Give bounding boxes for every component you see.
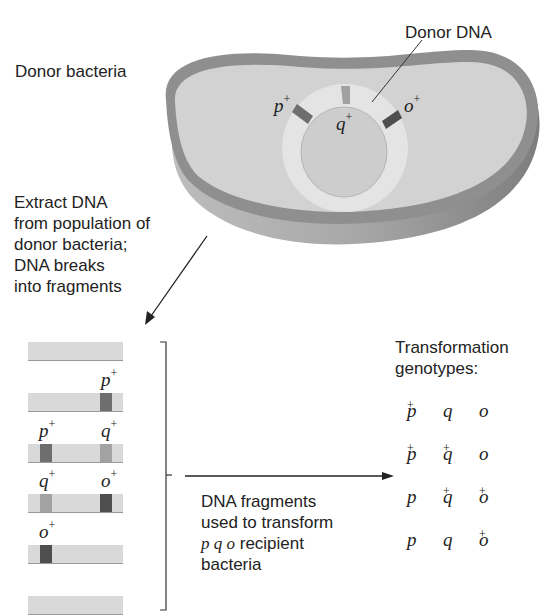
gene-q: q+ — [443, 443, 450, 466]
fragment-6 — [28, 596, 123, 615]
donor-dna-label: Donor DNA — [405, 22, 492, 43]
caption-line: used to transform — [201, 512, 333, 533]
title-line: Transformation — [395, 337, 509, 358]
caption-line: DNA fragments — [201, 491, 333, 512]
transform-caption: DNA fragments used to transform p q o re… — [201, 491, 333, 575]
p-band-icon — [40, 444, 52, 462]
genotype-row-2: p+ q+ o — [407, 443, 527, 467]
q-band-icon — [100, 444, 112, 462]
fragment-1 — [28, 342, 123, 361]
title-line: genotypes: — [395, 358, 509, 379]
caption-line: bacteria — [201, 554, 333, 575]
gene-o: o+ — [479, 529, 486, 552]
gene-p: p+ — [407, 400, 414, 423]
gene-o: o+ — [479, 486, 486, 509]
o-band-icon — [40, 545, 52, 563]
gene-p: p+ — [407, 443, 414, 466]
caption-text: recipient — [235, 534, 304, 553]
fragment-3-label-left: p+ — [39, 419, 55, 442]
gene-q: q+ — [443, 486, 450, 509]
fragment-4-label-left: q+ — [39, 469, 55, 492]
caption-line: p q o recipient — [201, 533, 333, 554]
p-band-icon — [100, 393, 112, 411]
caption-line: donor bacteria; — [14, 234, 150, 255]
caption-line: Extract DNA — [14, 192, 150, 213]
fragment-5 — [28, 545, 123, 564]
genotype-row-4: p q o+ — [407, 529, 527, 553]
o-band-icon — [100, 494, 112, 512]
donor-bacterium — [166, 50, 540, 244]
donor-bacteria-label: Donor bacteria — [15, 61, 127, 82]
fragment-2 — [28, 393, 123, 412]
caption-line: into fragments — [14, 276, 150, 297]
extract-dna-caption: Extract DNA from population of donor bac… — [14, 192, 150, 297]
fragment-4-label-right: o+ — [101, 469, 117, 492]
chromosome-label-q: q+ — [336, 112, 352, 135]
genotypes-title: Transformation genotypes: — [395, 337, 509, 379]
fragment-3-label-right: q+ — [101, 419, 117, 442]
recipient-genotype: p q o — [201, 534, 235, 553]
q-band-icon — [40, 494, 52, 512]
fragment-5-label: o+ — [39, 520, 55, 543]
fragment-4 — [28, 494, 123, 513]
transform-arrow-icon — [185, 472, 394, 480]
caption-line: DNA breaks — [14, 255, 150, 276]
fragments-bracket-icon — [160, 342, 172, 610]
caption-line: from population of — [14, 213, 150, 234]
genotype-row-3: p q+ o+ — [407, 486, 527, 510]
fragment-2-label: p+ — [101, 368, 117, 391]
fragment-3 — [28, 444, 123, 463]
chromosome-label-o: o+ — [404, 94, 420, 117]
genotype-row-1: p+ q o — [407, 400, 527, 424]
chromosome-label-p: p+ — [274, 94, 290, 117]
extract-arrow-icon — [145, 236, 207, 325]
